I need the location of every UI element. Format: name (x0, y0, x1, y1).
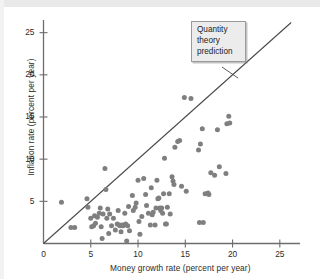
data-point (160, 211, 165, 216)
data-point (170, 174, 175, 179)
data-point (196, 147, 201, 152)
data-point (172, 145, 177, 150)
data-point (101, 211, 106, 216)
data-point (162, 156, 167, 161)
data-point (122, 211, 127, 216)
data-point (182, 95, 187, 100)
callout-line-3: prediction (197, 47, 241, 58)
plot-canvas (0, 0, 320, 279)
x-tick-label: 20 (221, 249, 245, 259)
data-point (165, 205, 170, 210)
y-tick-label: 25 (13, 27, 35, 37)
data-point (198, 141, 203, 146)
x-tick-label: 0 (32, 249, 56, 259)
callout-line-1: Quantity (197, 25, 241, 36)
callout-line-2: theory (197, 36, 241, 47)
data-point (133, 205, 138, 210)
x-axis-title: Money growth rate (percent per year) (110, 263, 251, 273)
data-point (141, 176, 146, 181)
data-point (72, 225, 77, 230)
data-point (226, 114, 231, 119)
data-point (200, 126, 205, 131)
x-tick-label: 10 (126, 249, 150, 259)
data-point (227, 120, 232, 125)
x-tick-label: 25 (268, 249, 292, 259)
data-point (130, 193, 135, 198)
data-point (134, 201, 139, 206)
data-point (148, 222, 153, 227)
data-point (144, 203, 149, 208)
data-point (151, 210, 156, 215)
data-point (223, 171, 228, 176)
data-point (139, 214, 144, 219)
data-point (212, 173, 217, 178)
data-point (105, 206, 110, 211)
data-point (59, 200, 64, 205)
data-point (188, 96, 193, 101)
data-point (179, 184, 184, 189)
y-axis-title: Inflation rate (percent per year) (26, 37, 36, 197)
data-point (206, 192, 211, 197)
quantity-theory-prediction-callout: Quantity theory prediction (191, 21, 246, 62)
x-tick-label: 15 (173, 249, 197, 259)
data-point (215, 127, 220, 132)
data-point (136, 178, 141, 183)
data-point (184, 189, 189, 194)
identity-line (44, 23, 292, 244)
data-point (111, 216, 116, 221)
data-point (127, 228, 132, 233)
data-point (107, 211, 112, 216)
data-point (124, 238, 129, 243)
data-point (167, 191, 172, 196)
data-point (106, 231, 111, 236)
data-point (84, 196, 89, 201)
data-point (99, 224, 104, 229)
data-point (137, 232, 142, 237)
data-point (201, 220, 206, 225)
data-point (171, 182, 176, 187)
data-point (100, 236, 105, 241)
data-point (93, 221, 98, 226)
data-point (177, 138, 182, 143)
data-point (85, 205, 90, 210)
data-point (149, 185, 154, 190)
data-point (98, 206, 103, 211)
data-point (154, 178, 159, 183)
quantity-theory-prediction-line (44, 23, 292, 244)
data-point (143, 192, 148, 197)
data-point (159, 206, 164, 211)
data-point (164, 222, 169, 227)
data-point (109, 223, 114, 228)
data-point (153, 222, 158, 227)
x-tick-label: 5 (79, 249, 103, 259)
data-point (104, 216, 109, 221)
y-tick-label: 5 (13, 196, 35, 206)
data-point (126, 204, 131, 209)
data-point (156, 195, 161, 200)
data-points (59, 95, 232, 243)
data-point (125, 223, 130, 228)
data-point (102, 166, 107, 171)
data-point (217, 164, 222, 169)
data-point (113, 228, 118, 233)
data-point (168, 211, 173, 216)
data-point (116, 208, 121, 213)
scatter-plot-figure: 0510152025510152025 Quantity theory pred… (0, 0, 320, 279)
data-point (161, 191, 166, 196)
data-point (119, 229, 124, 234)
data-point (136, 219, 141, 224)
data-point (103, 187, 108, 192)
